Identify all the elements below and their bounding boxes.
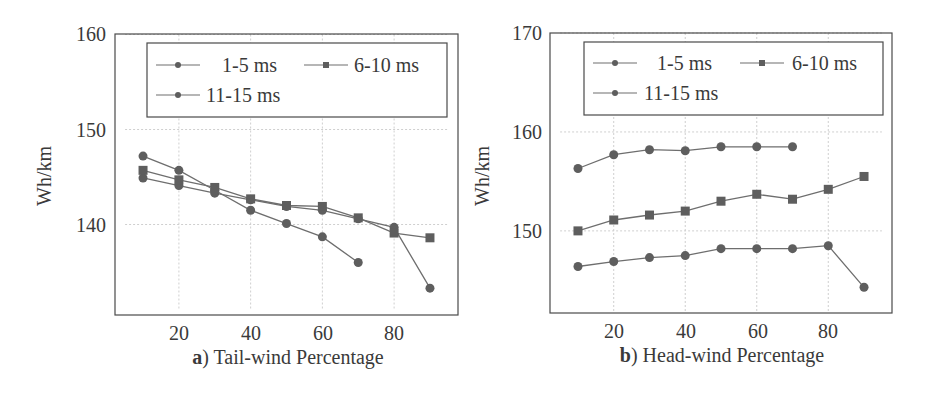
circle-marker-icon xyxy=(354,258,363,267)
chart-panel-b: 170 160 150 20 40 60 80 b) Head-wind Per… xyxy=(462,0,925,394)
square-marker-icon xyxy=(174,175,183,184)
legend-label-6-10: 6-10 ms xyxy=(354,54,419,76)
square-marker-icon xyxy=(609,215,618,224)
circle-marker-icon xyxy=(210,186,219,195)
square-marker-icon xyxy=(139,166,148,175)
chart-b-svg: 170 160 150 20 40 60 80 b) Head-wind Per… xyxy=(462,0,925,394)
square-marker-icon xyxy=(390,229,399,238)
circle-marker-icon xyxy=(717,142,726,151)
legend-b: 1-5 ms 6-10 ms 11-15 ms xyxy=(584,42,883,115)
circle-marker-icon xyxy=(788,142,797,151)
circle-marker-icon xyxy=(609,257,618,266)
panel-letter-b: b xyxy=(620,344,631,366)
circle-marker-icon xyxy=(681,146,690,155)
y-tick-150: 150 xyxy=(76,119,106,141)
circle-marker-icon xyxy=(573,262,582,271)
circle-marker-icon xyxy=(824,241,833,250)
square-marker-icon xyxy=(681,207,690,216)
x-tick-60: 60 xyxy=(748,320,768,342)
circle-marker-icon xyxy=(681,251,690,260)
legend-label-11-15: 11-15 ms xyxy=(644,82,718,104)
square-marker-icon xyxy=(573,226,582,235)
square-marker-icon xyxy=(323,62,329,68)
legend-a: 1-5 ms 6-10 ms 11-15 ms xyxy=(147,43,447,117)
circle-marker-icon xyxy=(717,244,726,253)
x-tick-40: 40 xyxy=(241,322,261,344)
square-marker-icon xyxy=(246,194,255,203)
circle-marker-icon xyxy=(282,219,291,228)
chart-panel-a: 160 150 140 20 40 60 80 a) Tail-wind Per… xyxy=(0,0,462,394)
circle-marker-icon xyxy=(788,244,797,253)
circle-marker-icon xyxy=(174,166,183,175)
circle-marker-icon xyxy=(612,90,618,96)
x-tick-20: 20 xyxy=(604,320,624,342)
circle-marker-icon xyxy=(175,92,181,98)
circle-marker-icon xyxy=(752,142,761,151)
circle-marker-icon xyxy=(609,150,618,159)
square-marker-icon xyxy=(645,211,654,220)
square-marker-icon xyxy=(759,60,765,66)
legend-label-11-15: 11-15 ms xyxy=(206,84,280,106)
x-tick-80: 80 xyxy=(818,320,838,342)
circle-marker-icon xyxy=(573,164,582,173)
legend-label-1-5: 1-5 ms xyxy=(222,54,277,76)
x-tick-40: 40 xyxy=(676,320,696,342)
legend-label-1-5: 1-5 ms xyxy=(657,52,712,74)
circle-marker-icon xyxy=(860,283,869,292)
y-axis-label-b: Wh/km xyxy=(471,146,493,206)
x-axis-label-b: b) Head-wind Percentage xyxy=(620,344,824,367)
circle-marker-icon xyxy=(645,145,654,154)
y-tick-140: 140 xyxy=(76,214,106,236)
legend-label-6-10: 6-10 ms xyxy=(792,52,857,74)
circle-marker-icon xyxy=(612,60,618,66)
x-tick-20: 20 xyxy=(169,322,189,344)
square-marker-icon xyxy=(860,172,869,181)
circle-marker-icon xyxy=(175,62,181,68)
circle-marker-icon xyxy=(645,253,654,262)
square-marker-icon xyxy=(318,202,327,211)
square-marker-icon xyxy=(752,190,761,199)
square-marker-icon xyxy=(717,197,726,206)
series-line xyxy=(143,178,430,288)
y-tick-160: 160 xyxy=(512,121,542,143)
square-marker-icon xyxy=(824,185,833,194)
x-tick-80: 80 xyxy=(384,322,404,344)
square-marker-icon xyxy=(354,213,363,222)
circle-marker-icon xyxy=(139,152,148,161)
y-tick-150: 150 xyxy=(512,220,542,242)
panel-letter-a: a xyxy=(192,346,202,368)
x-tick-60: 60 xyxy=(313,322,333,344)
y-tick-170: 170 xyxy=(512,22,542,44)
square-marker-icon xyxy=(425,233,434,242)
circle-marker-icon xyxy=(318,232,327,241)
chart-a-svg: 160 150 140 20 40 60 80 a) Tail-wind Per… xyxy=(0,0,462,394)
y-axis-label-a: Wh/km xyxy=(33,146,55,206)
circle-marker-icon xyxy=(752,244,761,253)
circle-marker-icon xyxy=(246,206,255,215)
y-tick-160: 160 xyxy=(76,23,106,45)
square-marker-icon xyxy=(788,195,797,204)
circle-marker-icon xyxy=(425,284,434,293)
x-axis-label-a: a) Tail-wind Percentage xyxy=(192,346,384,369)
square-marker-icon xyxy=(282,201,291,210)
